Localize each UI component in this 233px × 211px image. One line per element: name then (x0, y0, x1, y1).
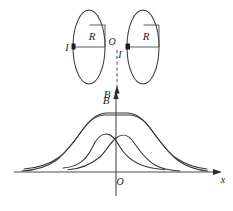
left-coil-current-label: I (64, 42, 69, 53)
field-graph: x B O (14, 91, 226, 196)
coil-diagram: R R I I O B (64, 10, 159, 100)
left-coil-current-marker (72, 44, 76, 50)
graph-x-axis-label: x (220, 174, 226, 185)
left-coil-radius-label: R (88, 30, 96, 42)
graph-y-axis-label: B (103, 94, 110, 106)
field-direction-arrow-icon (114, 86, 119, 94)
graph-origin-label: O (116, 176, 123, 187)
right-coil-radius-label: R (142, 30, 150, 42)
right-coil-current-marker (126, 44, 131, 50)
figure-root: R R I I O B x B O (0, 0, 233, 211)
right-coil-current-label: I (117, 49, 122, 60)
figure-svg: R R I I O B x B O (0, 0, 233, 211)
coil-origin-label: O (108, 36, 115, 47)
